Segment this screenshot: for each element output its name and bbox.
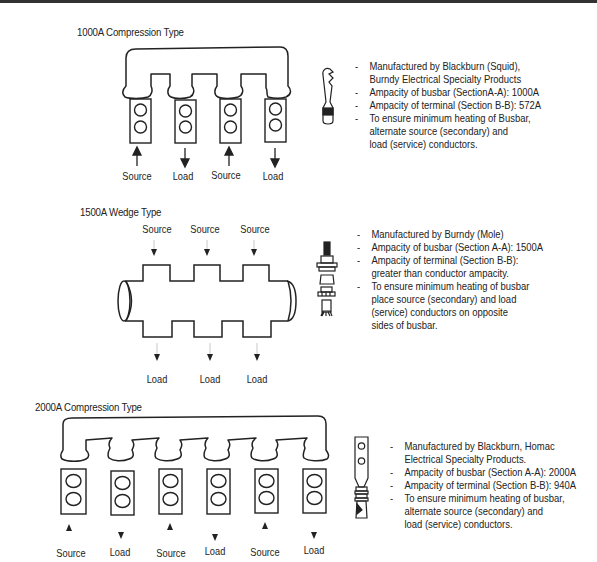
label-source-1: Source (49, 547, 93, 559)
terminal-lugs-2000a (61, 469, 326, 515)
note-item: Manufactured by Blackburn, HomacElectric… (390, 440, 576, 466)
arrow-down-icon (118, 532, 124, 539)
arrow-up-icon (66, 524, 72, 531)
note-item: Ampacity of busbar (Section A-A): 2000A (390, 466, 576, 479)
arrow-up-icon (262, 522, 268, 529)
label-source-2: Source (149, 547, 193, 559)
label-load-2: Load (193, 545, 237, 557)
arrow-down-icon (311, 532, 317, 539)
label-source-3: Source (243, 546, 287, 558)
notes-2000a: Manufactured by Blackburn, HomacElectric… (390, 440, 576, 531)
label-load-3: Load (292, 544, 336, 556)
arrow-down-icon (212, 534, 218, 541)
label-load-1: Load (98, 546, 142, 558)
note-item: To ensure minimum heating of busbar,alte… (390, 492, 576, 531)
note-item: Ampacity of terminal (Section B-B): 940A (390, 479, 576, 492)
arrow-up-icon (167, 523, 173, 530)
compression-terminal-icon (355, 437, 368, 518)
